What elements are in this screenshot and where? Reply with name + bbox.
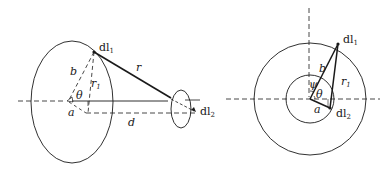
label-r1-left: r1: [91, 77, 101, 91]
theta-arc: [314, 96, 315, 99]
r-line: [94, 52, 171, 98]
label-r1-right: r1: [341, 75, 351, 89]
label-b-left: b: [70, 65, 77, 78]
label-d: d: [128, 116, 135, 129]
small-loop: [171, 90, 191, 128]
dl1-point: [92, 50, 95, 53]
label-dl1-left: dl1: [99, 41, 114, 55]
label-dl1-right: dl1: [343, 33, 358, 47]
diagram-canvas: dl1 r b r1 θ a d dl2 dl1 b ψ θ r1 a dl2: [0, 0, 389, 171]
label-dl2-right: dl2: [336, 107, 351, 121]
label-a-left: a: [68, 106, 75, 119]
label-dl2-left: dl2: [200, 105, 215, 119]
label-a-right: a: [314, 103, 321, 116]
label-theta-left: θ: [76, 89, 83, 102]
dl1-point-right: [336, 42, 339, 45]
left-figure: [18, 41, 200, 163]
label-b-right: b: [319, 62, 326, 75]
dl2-arrowhead: [191, 107, 196, 112]
label-r: r: [136, 61, 142, 74]
right-figure: [226, 8, 380, 155]
dl2-point-right: [328, 106, 331, 109]
label-theta-right: θ: [316, 88, 323, 101]
